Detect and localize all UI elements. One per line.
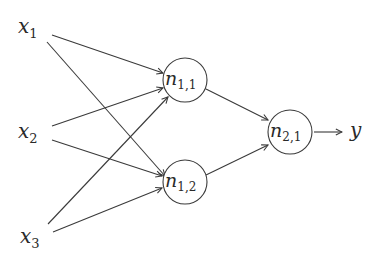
output-label-y: y [349, 118, 362, 142]
edge-x2-n12 [52, 140, 162, 176]
edge-x1-n12 [47, 42, 165, 176]
edge-n12-n21 [206, 145, 268, 175]
edge-n11-n21 [206, 89, 268, 120]
input-label-x2: x2 [18, 119, 38, 146]
neural-network-diagram: x1 x2 x3 n1,1 n1,2 n2,1 y [0, 0, 384, 258]
edge-x3-n11 [48, 97, 168, 224]
input-label-x1: x1 [18, 14, 38, 41]
input-label-x3: x3 [20, 224, 40, 251]
edge-x3-n12 [53, 188, 162, 232]
